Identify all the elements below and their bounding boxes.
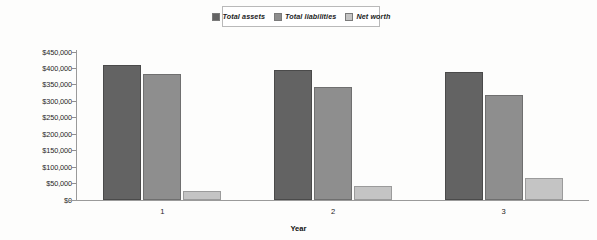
y-axis-tick-label: $150,000: [42, 146, 76, 155]
y-axis-tick-label: $200,000: [42, 130, 76, 139]
bar[interactable]: [525, 178, 563, 200]
bars-layer: [77, 52, 589, 200]
legend-swatch-icon: [212, 13, 220, 21]
bar[interactable]: [183, 191, 221, 200]
y-axis-tick-label: $100,000: [42, 163, 76, 172]
bar[interactable]: [485, 95, 523, 200]
x-axis-tick-label: 2: [331, 207, 335, 216]
y-axis-tick: $0: [0, 195, 76, 205]
legend-entry[interactable]: Total liabilities: [274, 12, 336, 21]
y-axis-tick-label: $400,000: [42, 64, 76, 73]
legend-label: Total assets: [223, 12, 265, 21]
legend-swatch-icon: [274, 13, 282, 21]
x-axis-title: Year: [0, 224, 597, 233]
y-axis-tick: $350,000: [0, 80, 76, 90]
bar[interactable]: [143, 74, 181, 200]
y-axis-tick: $250,000: [0, 113, 76, 123]
bar[interactable]: [103, 65, 141, 200]
y-axis-tick: $100,000: [0, 162, 76, 172]
y-axis-tick-label: $450,000: [42, 48, 76, 57]
legend-entry[interactable]: Net worth: [345, 12, 390, 21]
bar-group: [103, 52, 221, 200]
y-axis-tick: $150,000: [0, 146, 76, 156]
legend-label: Total liabilities: [285, 12, 336, 21]
y-axis-tick: $300,000: [0, 96, 76, 106]
y-axis: $450,000$400,000$350,000$300,000$250,000…: [0, 0, 76, 240]
y-axis-tick-label: $300,000: [42, 97, 76, 106]
y-axis-tick: $450,000: [0, 47, 76, 57]
bar[interactable]: [314, 87, 352, 200]
bar[interactable]: [354, 186, 392, 200]
y-axis-tick: $50,000: [0, 179, 76, 189]
y-axis-tick-label: $250,000: [42, 113, 76, 122]
chart-legend: Total assetsTotal liabilitiesNet worth: [222, 6, 380, 27]
x-axis-tick-label: 3: [502, 207, 506, 216]
bar-group: [445, 52, 563, 200]
legend-label: Net worth: [356, 12, 390, 21]
bar-group: [274, 52, 392, 200]
x-axis-tick-label: 1: [160, 207, 164, 216]
bar[interactable]: [445, 72, 483, 200]
legend-swatch-icon: [345, 13, 353, 21]
y-axis-tick: $200,000: [0, 129, 76, 139]
x-axis-line: [68, 200, 589, 201]
bar[interactable]: [274, 70, 312, 200]
y-axis-tick-label: $350,000: [42, 80, 76, 89]
legend-entry[interactable]: Total assets: [212, 12, 265, 21]
bar-chart: Total assetsTotal liabilitiesNet worth $…: [0, 0, 597, 240]
y-axis-tick: $400,000: [0, 63, 76, 73]
